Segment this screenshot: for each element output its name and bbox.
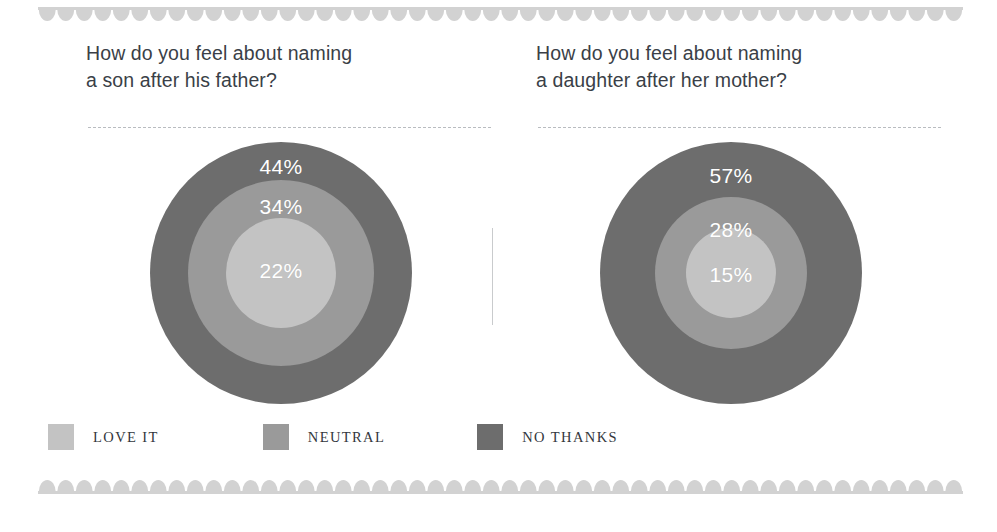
legend-item-love-it: LOVE IT bbox=[48, 424, 159, 450]
legend-item-no-thanks: NO THANKS bbox=[477, 424, 618, 450]
concentric-chart-daughter: 57% 28% 15% bbox=[600, 142, 862, 404]
panel-daughter: How do you feel about naming a daughter … bbox=[536, 40, 946, 400]
ring-label-love-it: 22% bbox=[260, 259, 303, 283]
legend-swatch-neutral bbox=[263, 424, 289, 450]
legend-swatch-no-thanks bbox=[477, 424, 503, 450]
title-dashed-rule bbox=[88, 127, 491, 129]
scallop-border-top-icon bbox=[38, 7, 963, 23]
ring-label-no-thanks: 44% bbox=[260, 155, 303, 179]
legend-swatch-love-it bbox=[48, 424, 74, 450]
title-dashed-rule bbox=[538, 127, 941, 129]
panel-divider bbox=[492, 228, 493, 325]
panel-son: How do you feel about naming a son after… bbox=[86, 40, 496, 400]
ring-label-neutral: 34% bbox=[260, 195, 303, 219]
legend-label-no-thanks: NO THANKS bbox=[522, 429, 618, 446]
concentric-chart-son: 44% 34% 22% bbox=[150, 142, 412, 404]
legend: LOVE IT NEUTRAL NO THANKS bbox=[48, 424, 618, 450]
legend-label-love-it: LOVE IT bbox=[93, 429, 159, 446]
legend-item-neutral: NEUTRAL bbox=[263, 424, 385, 450]
ring-label-no-thanks: 57% bbox=[710, 164, 753, 188]
panel-title-daughter: How do you feel about naming a daughter … bbox=[536, 40, 946, 94]
infographic-page: How do you feel about naming a son after… bbox=[0, 0, 997, 532]
legend-label-neutral: NEUTRAL bbox=[308, 429, 385, 446]
ring-label-love-it: 15% bbox=[710, 263, 753, 287]
ring-label-neutral: 28% bbox=[710, 218, 753, 242]
scallop-border-bottom-icon bbox=[38, 478, 963, 494]
panel-title-son: How do you feel about naming a son after… bbox=[86, 40, 496, 94]
